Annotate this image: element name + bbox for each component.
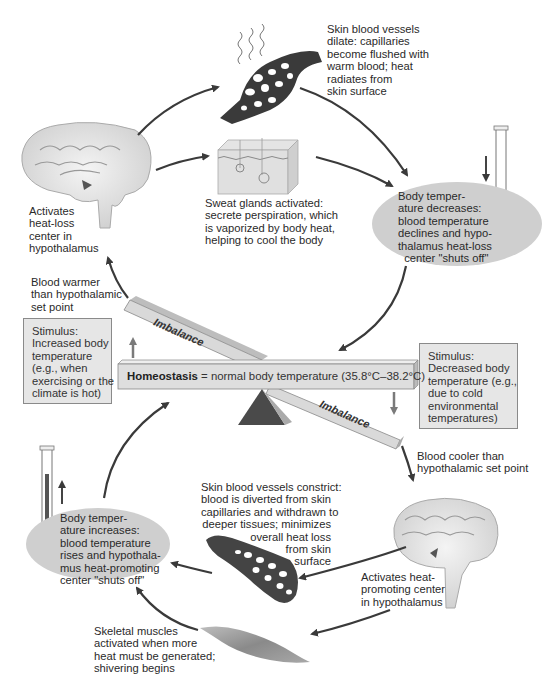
blood-cooler-text: Blood cooler than hypothalamic set point: [417, 450, 528, 475]
heat-loss-result-text: Body temper- ature decreases: blood temp…: [398, 190, 492, 264]
vessels-constrict-text: Skin blood vessels constrict: blood is d…: [201, 481, 331, 568]
homeostasis-label: Homeostasis = normal body temperature (3…: [118, 364, 414, 389]
heat-promoting-result-text: Body temper- ature increases: blood temp…: [60, 512, 161, 586]
dilated-vessels-icon: [220, 51, 322, 124]
heat-promoting-center-text: Activates heat- promoting center in hypo…: [361, 571, 445, 608]
homeostasis-range: = normal body temperature (35.8°C–38.2°C…: [198, 370, 425, 382]
heat-waves-icon: [238, 24, 264, 64]
skeletal-muscle-icon: [200, 626, 310, 662]
sweat-gland-skin-icon: [218, 138, 298, 194]
stimulus-decreased-box: Stimulus: Decreased body temperature (e.…: [419, 343, 518, 429]
homeostasis-bold: Homeostasis: [127, 370, 198, 382]
sweat-glands-text: Sweat glands activated: secrete perspira…: [205, 197, 338, 247]
vessels-dilate-text: Skin blood vessels dilate: capillaries b…: [327, 23, 429, 97]
stimulus-increased-box: Stimulus: Increased body temperature (e.…: [23, 318, 112, 404]
heat-loss-center-text: Activates heat-loss center in hypothalam…: [29, 205, 99, 255]
skeletal-muscles-text: Skeletal muscles activated when more hea…: [94, 625, 215, 675]
blood-warmer-text: Blood warmer than hypothalamic set point: [31, 276, 122, 313]
